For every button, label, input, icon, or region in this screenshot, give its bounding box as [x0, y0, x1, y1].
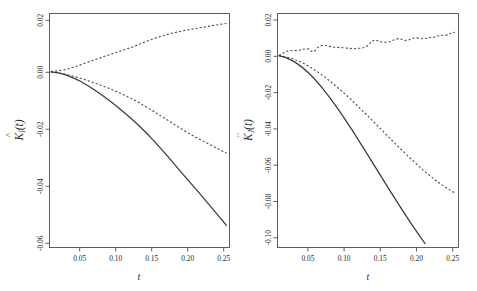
y-axis-ticks-right	[274, 20, 278, 238]
x-tick-label: 0.05	[301, 254, 314, 263]
x-tick-label: 0.20	[181, 254, 194, 263]
y-tick-label: -0.02	[264, 85, 273, 101]
plot-panel-left: 0.02 0.00 -0.02 -0.04 -0.06 0.05 0.10 0.…	[0, 0, 240, 291]
y-tick-label: -0.04	[36, 178, 45, 194]
x-tick-label: 0.25	[446, 254, 459, 263]
x-axis-tick-labels-left: 0.05 0.10 0.15 0.20 0.25	[73, 254, 230, 263]
upper-confidence-band-left	[51, 24, 226, 72]
upper-confidence-band-right	[279, 32, 455, 55]
y-axis-title-hat-accent: ^	[237, 132, 243, 137]
x-tick-label: 0.20	[410, 254, 423, 263]
estimate-curve-left	[51, 72, 226, 226]
y-tick-label: 0.02	[36, 14, 45, 27]
y-tick-label: -0.08	[264, 194, 273, 210]
y-axis-title-hat-accent: ^	[4, 132, 14, 137]
curves-left	[51, 24, 226, 226]
figure-container: 0.02 0.00 -0.02 -0.04 -0.06 0.05 0.10 0.…	[0, 0, 477, 291]
y-axis-title-text: KI(t)	[13, 119, 27, 141]
y-tick-label: -0.06	[36, 235, 45, 251]
y-axis-title-right: KJ(t) ^	[237, 119, 255, 142]
y-tick-label: -0.02	[36, 121, 45, 137]
x-tick-label: 0.10	[109, 254, 122, 263]
x-axis-title-left: t	[138, 271, 141, 282]
x-axis-tick-labels-right: 0.05 0.10 0.15 0.20 0.25	[301, 254, 459, 263]
plot-box-left	[50, 14, 230, 248]
x-tick-label: 0.05	[73, 254, 86, 263]
y-tick-label: 0.00	[264, 50, 273, 63]
x-tick-label: 0.25	[217, 254, 230, 263]
x-tick-label: 0.15	[145, 254, 158, 263]
curves-right	[279, 32, 455, 243]
y-axis-title-text: KJ(t)	[242, 119, 256, 142]
plot-svg-right: 0.02 0.00 -0.02 -0.04 -0.06 -0.08 -0.10 …	[237, 0, 477, 291]
estimate-curve-right	[279, 56, 425, 244]
lower-confidence-band-left	[51, 72, 226, 153]
y-axis-ticks-left	[46, 20, 50, 243]
y-tick-label: -0.04	[264, 121, 273, 137]
y-tick-label: -0.10	[264, 230, 273, 246]
y-axis-title-left: KI(t) ^	[4, 119, 26, 141]
y-axis-tick-labels-right: 0.02 0.00 -0.02 -0.04 -0.06 -0.08 -0.10	[264, 13, 273, 245]
plot-svg-left: 0.02 0.00 -0.02 -0.04 -0.06 0.05 0.10 0.…	[0, 0, 240, 291]
x-tick-label: 0.10	[338, 254, 351, 263]
y-tick-label: -0.06	[264, 157, 273, 173]
y-axis-tick-labels-left: 0.02 0.00 -0.02 -0.04 -0.06	[36, 14, 45, 251]
x-axis-title-right: t	[367, 271, 370, 282]
y-tick-label: 0.00	[36, 66, 45, 79]
x-tick-label: 0.15	[374, 254, 387, 263]
plot-panel-right: 0.02 0.00 -0.02 -0.04 -0.06 -0.08 -0.10 …	[237, 0, 477, 291]
x-axis-ticks-left	[80, 248, 224, 252]
x-axis-ticks-right	[308, 248, 453, 252]
y-tick-label: 0.02	[264, 13, 273, 26]
lower-confidence-band-right	[279, 56, 454, 193]
